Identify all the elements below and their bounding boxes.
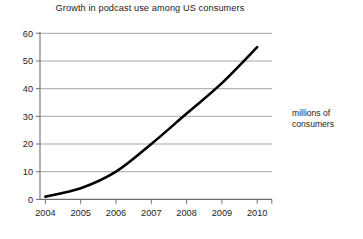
y-tick-label-40: 40 <box>23 84 33 94</box>
y-axis-ticks <box>36 33 40 199</box>
x-tick-label-2005: 2005 <box>70 208 90 218</box>
series-annotation: millions of consumers <box>292 108 362 130</box>
y-tick-label-10: 10 <box>23 167 33 177</box>
y-tick-label-30: 30 <box>23 112 33 122</box>
gridlines <box>40 33 272 171</box>
x-axis-ticks <box>45 199 271 203</box>
data-series-line <box>45 47 257 196</box>
y-tick-label-20: 20 <box>23 139 33 149</box>
annotation-line-1: millions of <box>292 108 362 119</box>
y-axis-tick-labels: 60 50 40 30 20 10 0 <box>23 29 33 205</box>
y-tick-label-50: 50 <box>23 56 33 66</box>
chart-container: Growth in podcast use among US consumers <box>0 0 363 239</box>
x-tick-label-2004: 2004 <box>35 208 55 218</box>
x-tick-label-2006: 2006 <box>106 208 126 218</box>
y-tick-label-0: 0 <box>28 195 33 205</box>
y-tick-label-60: 60 <box>23 29 33 39</box>
x-tick-label-2008: 2008 <box>176 208 196 218</box>
x-tick-label-2009: 2009 <box>212 208 232 218</box>
x-tick-label-2007: 2007 <box>141 208 161 218</box>
x-axis-tick-labels: 2004 2005 2006 2007 2008 2009 2010 <box>35 208 267 218</box>
x-tick-label-2010: 2010 <box>247 208 267 218</box>
annotation-line-2: consumers <box>292 119 362 130</box>
